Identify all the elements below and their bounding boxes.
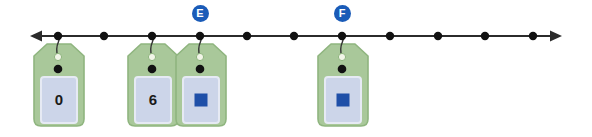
tag-rivet-dot bbox=[196, 65, 205, 74]
arrow-right-icon bbox=[550, 31, 562, 42]
number-line-point[interactable] bbox=[529, 32, 537, 40]
tag-rivet-dot bbox=[148, 65, 157, 74]
number-line-point[interactable] bbox=[481, 32, 489, 40]
blue-square-marker bbox=[195, 94, 208, 107]
number-line-layer bbox=[30, 31, 562, 42]
number-line-point[interactable] bbox=[54, 32, 62, 40]
point-badge-f[interactable]: F bbox=[334, 5, 351, 22]
number-line-point[interactable] bbox=[243, 32, 251, 40]
number-line-point[interactable] bbox=[338, 32, 346, 40]
tag-six[interactable] bbox=[128, 36, 178, 126]
tags-layer bbox=[34, 36, 368, 126]
point-badge-e[interactable]: E bbox=[192, 5, 209, 22]
tag-grommet-hole bbox=[54, 53, 61, 60]
tag-number-label: 6 bbox=[133, 92, 173, 107]
tag-grommet-hole bbox=[148, 53, 155, 60]
number-line-point[interactable] bbox=[196, 32, 204, 40]
number-line-point[interactable] bbox=[100, 32, 108, 40]
tag-number-label: 0 bbox=[39, 92, 79, 107]
arrow-left-icon bbox=[30, 31, 42, 42]
tag-blue-square-f[interactable] bbox=[318, 36, 368, 126]
number-line-point[interactable] bbox=[386, 32, 394, 40]
tag-grommet-hole bbox=[196, 53, 203, 60]
tag-rivet-dot bbox=[54, 65, 63, 74]
number-line-point[interactable] bbox=[148, 32, 156, 40]
number-line-figure bbox=[0, 0, 592, 137]
blue-square-marker bbox=[337, 94, 350, 107]
tag-zero[interactable] bbox=[34, 36, 84, 126]
figure-canvas: 06 EF bbox=[0, 0, 592, 137]
tag-grommet-hole bbox=[338, 53, 345, 60]
number-line-point[interactable] bbox=[290, 32, 298, 40]
tag-blue-square-e[interactable] bbox=[176, 36, 226, 126]
number-line-point[interactable] bbox=[434, 32, 442, 40]
tag-rivet-dot bbox=[338, 65, 347, 74]
